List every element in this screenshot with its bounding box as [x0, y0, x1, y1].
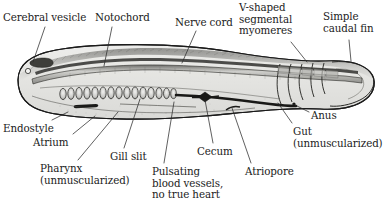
label-atriopore: Atriopore: [245, 166, 294, 178]
label-v-shaped-segmental-myomeres: V-shaped segmental myomeres: [239, 2, 292, 37]
label-gut-unmuscularized: Gut (unmuscularized): [293, 126, 383, 149]
label-pulsating-blood-vessels: Pulsating blood vessels, no true heart: [152, 166, 223, 201]
leader-atriopore: [232, 108, 251, 163]
gill-slit-structures: [60, 87, 177, 100]
label-atrium: Atrium: [33, 137, 68, 149]
label-pharynx-unmuscularized: Pharynx (unmuscularized): [40, 163, 130, 186]
leader-atrium: [73, 116, 95, 134]
label-gill-slit: Gill slit: [110, 151, 147, 163]
label-endostyle: Endostyle: [3, 123, 54, 135]
eyespot-structure: [25, 68, 30, 73]
lancelet-anatomy-figure: Cerebral vesicleNotochordNerve cordV-sha…: [0, 0, 385, 206]
label-simple-caudal-fin: Simple caudal fin: [323, 11, 374, 34]
label-cerebral-vesicle: Cerebral vesicle: [3, 12, 86, 24]
leader-caudal-fin: [349, 40, 351, 61]
label-nerve-cord: Nerve cord: [175, 17, 233, 29]
label-notochord: Notochord: [95, 12, 150, 24]
leader-myomeres: [291, 42, 307, 62]
label-cecum: Cecum: [197, 146, 233, 158]
label-anus: Anus: [311, 110, 337, 122]
lancelet-body-group: [18, 45, 374, 119]
